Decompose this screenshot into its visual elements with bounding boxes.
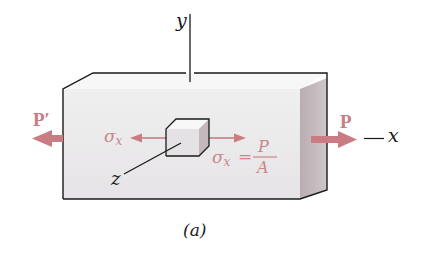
stress-element-cube — [166, 119, 209, 156]
diagram-canvas — [0, 0, 423, 260]
stress-equation-lhs: σx — [212, 149, 230, 168]
force-label-left: P′ — [33, 110, 50, 129]
fraction-numerator: P — [258, 139, 269, 155]
fraction-denominator: A — [257, 160, 269, 176]
axial-stress-diagram: y x z P′ P σx σx = P A (a) — [0, 0, 423, 260]
figure-caption: (a) — [183, 222, 206, 239]
stress-symbol: σ — [104, 126, 116, 146]
y-axis-label: y — [176, 11, 187, 30]
stress-equation-equals: = — [238, 148, 252, 165]
stress-equation-symbol: σ — [212, 147, 224, 167]
z-axis-label: z — [111, 170, 120, 188]
x-axis-label: x — [388, 126, 399, 145]
stress-label-left: σx — [104, 128, 122, 147]
bar-top-face — [63, 73, 327, 89]
force-label-right: P — [340, 112, 352, 131]
force-arrow-left — [32, 130, 63, 147]
stress-subscript: x — [116, 134, 123, 148]
stress-equation-subscript: x — [224, 155, 231, 169]
